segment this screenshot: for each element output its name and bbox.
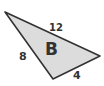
side-label-bottom: 4 [73,69,81,82]
triangle-name-label: B [45,39,58,59]
side-label-left: 8 [19,50,27,63]
side-label-top: 12 [49,22,63,33]
triangle-diagram: 12 B 8 4 [0,0,104,86]
